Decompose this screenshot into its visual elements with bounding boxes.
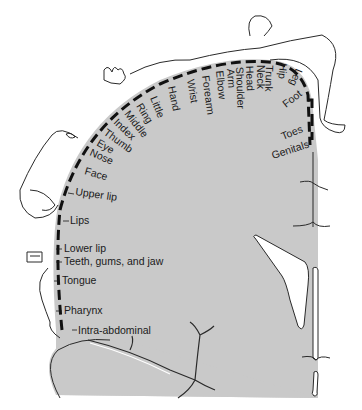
label-tongue: Tongue: [62, 274, 97, 286]
label-pharynx: Pharynx: [64, 304, 103, 316]
label-lower-lip: Lower lip: [64, 242, 106, 254]
label-hip: Hip: [276, 63, 290, 80]
jaw-outline: [27, 252, 42, 262]
label-head: Head: [244, 66, 257, 92]
head-outline: [249, 16, 272, 36]
eye-outline: [66, 133, 75, 138]
hand-outline: [104, 67, 125, 84]
label-lips: Lips: [70, 214, 89, 226]
label-trunk: Trunk: [263, 65, 276, 93]
label-intra-abdominal: Intra-abdominal: [78, 324, 151, 336]
homunculus-diagram: Little Hand Wrist Forearm Elbow Arm Shou…: [0, 0, 362, 410]
label-teeth-gums-jaw: Teeth, gums, and jaw: [64, 255, 164, 267]
